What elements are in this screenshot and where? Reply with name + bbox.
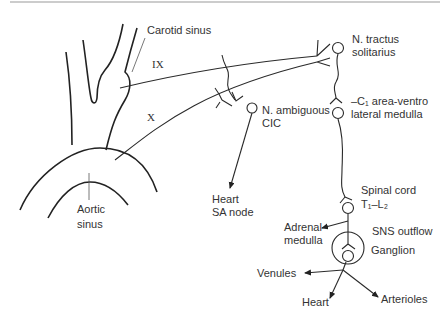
internal-carotid-wall [83,24,123,103]
carotid-sinus-wall [106,28,137,150]
label-heart-sa-2: SA node [212,206,254,219]
label-adrenal-1: Adrenal [284,221,322,234]
carotid-pointer [132,38,145,72]
label-n-ambiguous-2: CIC [262,117,281,130]
label-carotid-sinus: Carotid sinus [147,24,211,37]
label-nts-2: solitarius [352,46,395,59]
arrow-to-adrenal [322,221,348,228]
left-vessel-wall [66,52,72,145]
aortic-arch-outer [20,148,157,210]
nerve-ix-fork [317,40,330,56]
c1-neuron [333,108,344,119]
label-aortic-sinus-2: sinus [77,218,103,231]
label-aortic-sinus-1: Aortic [77,203,105,216]
label-heart: Heart [302,296,329,309]
label-nts-1: N. tractus [352,33,399,46]
label-c1-1: –C₁ area-ventro [351,95,428,108]
label-c1-2: lateral medulla [351,108,423,121]
nts-axon [334,54,338,98]
postganglionic-neuron [343,251,354,262]
label-nerve-ix: IX [152,58,164,70]
nerve-x-fork [317,58,330,66]
label-adrenal-2: medulla [284,234,323,247]
spinal-neuron [343,203,354,214]
arrow-to-arterioles [343,270,378,297]
ganglion-synapse [342,237,355,249]
arrow-to-heart-sa [230,113,252,188]
nts-neuron [333,43,344,54]
label-n-ambiguous-1: N. ambiguous [262,104,330,117]
label-spinal-2: T₁–L₂ [361,198,388,211]
label-arterioles: Arterioles [381,293,427,306]
label-nerve-x: X [147,111,155,123]
label-spinal-1: Spinal cord [361,184,416,197]
c1-axon [338,119,345,197]
label-ganglion: Ganglion [371,244,415,257]
c1-terminal [340,197,352,203]
nts-terminal [330,98,342,104]
label-sns-outflow: SNS outflow [372,225,433,238]
baroreflex-diagram: Carotid sinus IX X Aortic sinus N. tract… [0,0,444,325]
label-venules: Venules [257,267,296,280]
arrow-to-heart [330,270,343,298]
n-ambiguous-neuron [247,103,257,113]
nerve-ix [120,56,317,88]
arrow-to-venules [305,270,343,273]
label-heart-sa-1: Heart [212,193,239,206]
